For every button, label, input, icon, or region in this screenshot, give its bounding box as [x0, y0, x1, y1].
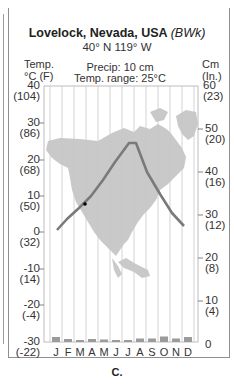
- right-tick-40: 40(16): [205, 166, 225, 188]
- left-tick-minus20: -20(-4): [10, 299, 40, 321]
- left-tick-minus30: -30(-22): [10, 336, 40, 358]
- right-axis-ticks: [198, 129, 203, 301]
- right-tick-30: 30(12): [205, 209, 225, 231]
- right-tick-50: 50(20): [205, 123, 225, 145]
- right-tick-0: 0: [205, 339, 211, 350]
- month-label: N: [170, 346, 182, 358]
- left-tick-40: 40(104): [10, 80, 40, 102]
- left-tick-0: 0(32): [10, 226, 40, 248]
- month-label: O: [158, 346, 170, 358]
- left-tick-10: 10(50): [10, 190, 40, 212]
- month-label: A: [134, 346, 146, 358]
- left-tick-minus10: -10(14): [10, 263, 40, 285]
- month-label: M: [98, 346, 110, 358]
- month-label: J: [110, 346, 122, 358]
- month-label: J: [122, 346, 134, 358]
- left-tick-30: 30(86): [10, 117, 40, 139]
- right-tick-20: 20(8): [205, 252, 219, 274]
- month-label: M: [74, 346, 86, 358]
- month-label: A: [86, 346, 98, 358]
- left-tick-20: 20(68): [10, 154, 40, 176]
- right-tick-10: 10(4): [205, 295, 219, 317]
- station-location-dot: [83, 202, 87, 206]
- figure-caption: C.: [0, 366, 234, 378]
- month-label: F: [62, 346, 74, 358]
- month-label: D: [182, 346, 194, 358]
- month-label: J: [50, 346, 62, 358]
- right-tick-60: 60(23): [203, 80, 223, 102]
- month-label: S: [146, 346, 158, 358]
